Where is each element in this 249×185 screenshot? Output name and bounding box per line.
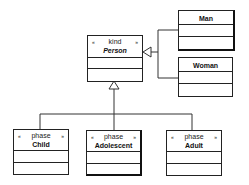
guillemet-open: «	[92, 38, 95, 46]
class-child[interactable]: « phase » Child	[13, 129, 69, 175]
operations-compartment	[88, 69, 142, 81]
class-adolescent[interactable]: « phase » Adolescent	[86, 130, 142, 176]
stereotype-label: « phase »	[14, 130, 68, 140]
attributes-compartment	[87, 152, 140, 164]
class-adult[interactable]: « phase » Adult	[166, 130, 222, 176]
stereotype-text: phase	[31, 132, 50, 140]
stereotype-label: « phase »	[167, 131, 221, 141]
operations-compartment	[179, 37, 233, 49]
attributes-compartment	[14, 151, 68, 163]
class-name: Person	[88, 46, 142, 55]
attributes-compartment	[167, 152, 221, 164]
class-child-header: « phase » Child	[14, 130, 68, 151]
guillemet-close: »	[135, 38, 138, 46]
attributes-compartment	[179, 72, 232, 84]
guillemet-close: »	[214, 133, 217, 141]
guillemet-open: «	[18, 132, 21, 140]
class-man[interactable]: Man	[178, 10, 235, 51]
class-name: Adult	[167, 141, 221, 150]
attributes-compartment	[88, 58, 142, 69]
stereotype-label: « phase »	[87, 131, 140, 141]
guillemet-close: »	[133, 133, 136, 141]
class-name: Adolescent	[87, 141, 140, 150]
class-man-header: Man	[179, 11, 233, 25]
generalization-line-man	[158, 30, 178, 52]
class-person[interactable]: « kind » Person	[87, 35, 143, 82]
attributes-compartment	[179, 25, 233, 37]
class-name: Child	[14, 140, 68, 149]
operations-compartment	[14, 163, 68, 174]
guillemet-close: »	[61, 132, 64, 140]
generalization-arrowhead-bottom-icon	[109, 81, 119, 89]
operations-compartment	[179, 84, 232, 96]
generalization-arrowhead-right-icon	[143, 47, 151, 57]
class-woman-header: Woman	[179, 58, 232, 72]
generalization-line-woman	[158, 52, 178, 78]
class-person-header: « kind » Person	[88, 36, 142, 58]
stereotype-label: « kind »	[88, 36, 142, 46]
guillemet-open: «	[91, 133, 94, 141]
class-woman[interactable]: Woman	[178, 57, 233, 97]
class-name: Woman	[179, 61, 232, 70]
guillemet-open: «	[171, 133, 174, 141]
stereotype-text: phase	[104, 133, 123, 141]
class-adolescent-header: « phase » Adolescent	[87, 131, 140, 152]
stereotype-text: phase	[184, 133, 203, 141]
operations-compartment	[167, 164, 221, 175]
class-adult-header: « phase » Adult	[167, 131, 221, 152]
operations-compartment	[87, 164, 140, 175]
stereotype-text: kind	[109, 38, 122, 46]
class-name: Man	[179, 14, 233, 23]
